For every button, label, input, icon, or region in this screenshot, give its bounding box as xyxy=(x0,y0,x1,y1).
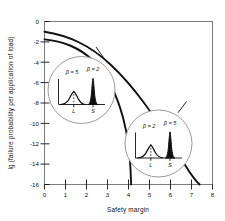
y-axis-title: lg (failure probability per application … xyxy=(7,36,15,169)
x-tick-label-0: 0 xyxy=(43,191,47,198)
x-tick-label-4: 4 xyxy=(127,191,131,198)
inset2-right-beta-label: β = 5 xyxy=(163,120,178,126)
inset1-left-beta-label: β = 5 xyxy=(65,69,80,75)
y-tick-label-m12: -12 xyxy=(30,140,40,147)
inset2-axis-tick-label-L: L xyxy=(149,162,152,168)
inset2-left-beta-label: β = 2 xyxy=(142,123,157,129)
y-tick-label-0: 0 xyxy=(36,18,40,25)
inset-lower-right: β = 2 β = 5 L S xyxy=(125,110,192,177)
x-axis-title: Safety margin xyxy=(107,206,149,214)
y-tick-label-m6: -6 xyxy=(33,79,39,86)
x-tick-label-2: 2 xyxy=(85,191,89,198)
inset2-axis-tick-label-S: S xyxy=(168,162,172,168)
y-tick-label-m4: -4 xyxy=(33,59,39,66)
x-tick-label-7: 7 xyxy=(190,191,194,198)
inset1-axis-tick-label-L: L xyxy=(72,108,75,114)
inset1-right-beta-label: β = 2 xyxy=(86,66,101,72)
y-axis-tick-labels: 0 -2 -4 -6 -8 -10 -12 -14 -16 xyxy=(30,18,40,188)
x-tick-label-3: 3 xyxy=(106,191,110,198)
y-tick-label-m2: -2 xyxy=(33,38,39,45)
y-tick-label-m16: -16 xyxy=(30,181,40,188)
figure-canvas: 0 -2 -4 -6 -8 -10 -12 -14 -16 0 1 2 3 4 … xyxy=(0,0,225,221)
y-tick-label-m14: -14 xyxy=(30,160,40,167)
inset1-axis-tick-label-S: S xyxy=(91,108,95,114)
y-tick-label-m8: -8 xyxy=(33,99,39,106)
inset-upper-left: β = 5 β = 2 L S xyxy=(48,57,115,124)
chart-svg: 0 -2 -4 -6 -8 -10 -12 -14 -16 0 1 2 3 4 … xyxy=(0,0,225,221)
x-tick-label-8: 8 xyxy=(211,191,215,198)
x-tick-label-5: 5 xyxy=(148,191,152,198)
y-tick-label-m10: -10 xyxy=(30,120,40,127)
x-tick-label-6: 6 xyxy=(169,191,173,198)
x-axis-tick-labels: 0 1 2 3 4 5 6 7 8 xyxy=(43,191,215,198)
x-tick-label-1: 1 xyxy=(64,191,68,198)
